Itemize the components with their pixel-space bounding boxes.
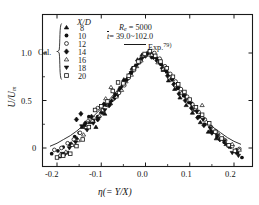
data-point bbox=[122, 82, 126, 86]
exp-annotation: Exp.79) bbox=[148, 41, 172, 52]
data-point bbox=[116, 81, 120, 85]
time-symbol: t bbox=[107, 32, 109, 41]
legend-brace bbox=[57, 24, 62, 80]
x-tick-label-0: -0.2 bbox=[45, 170, 58, 179]
data-point bbox=[236, 154, 240, 157]
data-point bbox=[73, 141, 77, 144]
data-point bbox=[188, 98, 192, 102]
data-point bbox=[53, 148, 57, 152]
legend-marker-18 bbox=[64, 66, 68, 69]
data-point bbox=[159, 60, 163, 64]
data-point bbox=[61, 154, 65, 158]
data-point bbox=[153, 54, 157, 58]
exp-reference: 79) bbox=[163, 41, 171, 48]
time-overbar bbox=[107, 31, 109, 32]
data-point bbox=[79, 111, 83, 116]
data-point bbox=[214, 130, 218, 134]
data-point bbox=[78, 131, 82, 135]
data-point bbox=[200, 113, 204, 117]
legend-marker-16 bbox=[64, 57, 68, 60]
data-point bbox=[127, 74, 131, 78]
data-point bbox=[111, 89, 115, 93]
data-point bbox=[93, 108, 97, 112]
data-point bbox=[207, 122, 211, 126]
y-axis-title-text: U/U bbox=[7, 91, 17, 107]
figure-container: U/Um η(= Y/X) -0.2 -0.1 0.0 0.1 0.2 0 0.… bbox=[0, 0, 259, 205]
y-axis-title: U/Um bbox=[4, 74, 18, 134]
legend-marker-8 bbox=[64, 25, 68, 28]
data-point bbox=[176, 83, 180, 87]
data-point bbox=[143, 52, 147, 56]
x-axis-title-rest: (= Y/X) bbox=[103, 187, 132, 197]
x-tick-label-1: -0.1 bbox=[89, 170, 102, 179]
data-point bbox=[81, 138, 85, 142]
y-axis-title-subscript: m bbox=[10, 87, 17, 91]
legend-group-label: Cal. bbox=[38, 48, 51, 57]
legend-value-6: 20 bbox=[74, 72, 90, 81]
data-point bbox=[165, 66, 169, 70]
reynolds-value: = 5000 bbox=[129, 23, 152, 32]
data-point bbox=[200, 103, 204, 106]
data-point bbox=[99, 104, 103, 108]
data-point bbox=[94, 125, 98, 128]
data-point bbox=[109, 85, 113, 88]
data-point bbox=[240, 156, 244, 160]
data-point bbox=[67, 147, 71, 150]
data-point bbox=[69, 152, 73, 156]
data-point bbox=[55, 156, 59, 160]
x-tick-label-4: 0.2 bbox=[225, 170, 236, 179]
legend-marker-12 bbox=[65, 42, 69, 46]
data-point bbox=[198, 120, 202, 123]
exp-label: Exp. bbox=[148, 43, 163, 52]
data-point bbox=[60, 146, 64, 150]
reynolds-annotation: Re = 5000 bbox=[119, 23, 152, 32]
legend-marker-14 bbox=[64, 49, 68, 54]
y-tick-label-0: 0 bbox=[32, 144, 36, 153]
data-point bbox=[227, 143, 231, 147]
data-point bbox=[74, 117, 78, 122]
x-tick-label-2: 0.0 bbox=[137, 170, 148, 179]
data-point bbox=[87, 125, 91, 129]
data-point bbox=[132, 66, 136, 70]
time-value: = 39.0~102.0 bbox=[109, 32, 153, 41]
y-tick-label-2: 1.0 bbox=[21, 49, 32, 58]
data-point bbox=[220, 137, 224, 141]
x-axis-title: η(= Y/X) bbox=[98, 188, 132, 198]
y-tick-label-1: 0.5 bbox=[21, 97, 32, 106]
data-point bbox=[233, 149, 237, 153]
time-annotation: t= 39.0~102.0 bbox=[107, 32, 153, 41]
data-point bbox=[75, 144, 79, 148]
data-point bbox=[137, 60, 141, 64]
data-point bbox=[194, 105, 198, 109]
data-point bbox=[50, 152, 54, 156]
legend-marker-20 bbox=[65, 74, 69, 78]
data-point bbox=[106, 100, 110, 104]
data-point bbox=[183, 90, 187, 94]
x-tick-label-3: 0.1 bbox=[181, 170, 192, 179]
data-point bbox=[171, 75, 175, 79]
data-point bbox=[56, 149, 60, 153]
legend-marker-10 bbox=[65, 34, 69, 38]
